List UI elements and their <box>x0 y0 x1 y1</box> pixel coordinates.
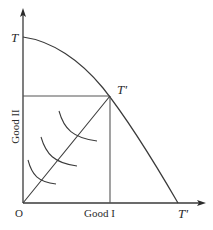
indifference-curve-mid <box>41 137 77 166</box>
tangency-point-label: T' <box>117 83 127 96</box>
indifference-curve-high <box>59 111 97 141</box>
expansion-ray <box>23 96 110 203</box>
figure-canvas <box>0 0 213 230</box>
indifference-curve-low <box>28 160 56 184</box>
x-intercept-label: T' <box>178 207 188 220</box>
x-axis-title: Good I <box>84 208 115 219</box>
y-axis-title: Good II <box>10 99 21 155</box>
y-intercept-label: T <box>11 31 18 44</box>
ppf-indifference-curve-figure: T T' T' O Good I Good II <box>0 0 213 230</box>
origin-label: O <box>15 208 23 219</box>
production-possibility-frontier-curve <box>23 37 178 203</box>
